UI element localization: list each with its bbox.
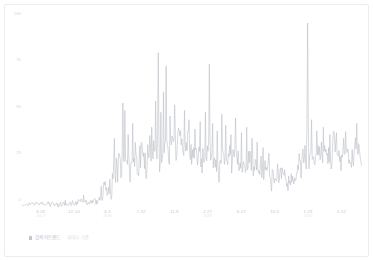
y-axis: 0255075100: [5, 13, 21, 199]
y-axis-tick: 100: [5, 11, 21, 16]
x-axis-tick: 7.22: [137, 209, 146, 214]
y-axis-tick: 25: [5, 150, 21, 155]
x-axis-tick: 10.5: [270, 209, 279, 214]
x-axis-tick: 4.32018: [103, 209, 112, 219]
x-axis-tick-year: 2017: [36, 214, 45, 219]
legend-sub-label: 데이터 기준: [67, 235, 89, 241]
x-axis-tick: 8.262017: [36, 209, 45, 219]
chart-plot-area: [22, 19, 362, 209]
x-axis-tick: 12.14: [68, 209, 80, 214]
x-axis-tick-date: 5.12: [337, 209, 346, 214]
x-axis-tick-year: 2020: [303, 214, 312, 219]
x-axis-tick-year: 2018: [103, 214, 112, 219]
series-line-path: [22, 23, 362, 207]
screenshot-root: 0255075100 8.26201712.144.320187.2211.92…: [0, 0, 373, 261]
x-axis-tick: 2.272019: [203, 209, 212, 219]
x-axis-tick-date: 12.14: [68, 209, 80, 214]
x-axis-tick-date: 6.17: [237, 209, 246, 214]
y-axis-tick: 75: [5, 57, 21, 62]
x-axis-tick-date: 10.5: [270, 209, 279, 214]
y-axis-tick: 50: [5, 104, 21, 109]
trend-line-chart[interactable]: [22, 19, 362, 209]
legend-marker-icon: [29, 236, 32, 239]
x-axis-tick: 1.232020: [303, 209, 312, 219]
x-axis-tick-date: 11.9: [170, 209, 179, 214]
x-axis-tick: 11.9: [170, 209, 179, 214]
x-axis: 8.26201712.144.320187.2211.92.2720196.17…: [22, 209, 367, 225]
chart-legend[interactable]: 검색어트렌드 데이터 기준: [29, 235, 89, 241]
y-axis-tick: 0: [5, 197, 21, 202]
legend-series-label: 검색어트렌드: [35, 235, 60, 241]
x-axis-tick: 6.17: [237, 209, 246, 214]
x-axis-tick-year: 2019: [203, 214, 212, 219]
x-axis-tick-date: 7.22: [137, 209, 146, 214]
chart-card: 0255075100 8.26201712.144.320187.2211.92…: [4, 4, 369, 257]
x-axis-tick: 5.12: [337, 209, 346, 214]
